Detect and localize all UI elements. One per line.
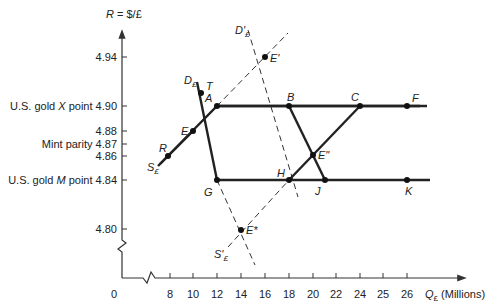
y-tick-label: 4.86 (96, 150, 117, 162)
demand-curve (197, 82, 430, 180)
shifted-demand-bj (289, 106, 325, 180)
point-label-r: R (159, 142, 167, 154)
supply-curve (160, 106, 420, 164)
y-tick-label: Mint parity 4.87 (42, 138, 117, 150)
point-label-c: C (351, 91, 359, 103)
y-tick-label: 4.80 (96, 223, 117, 235)
x-axis-title: Q£ (Millions) (425, 288, 485, 303)
point-label-e3: E* (246, 224, 258, 236)
s-curve-label: S£ (147, 161, 159, 176)
point-b (286, 103, 292, 109)
point-h (286, 177, 292, 183)
x-ticks: 810121416182022242526 (167, 273, 413, 300)
point-e3 (238, 227, 244, 233)
points: ABCFGHJKERTE'E"E* (159, 52, 420, 236)
point-label-h: H (277, 167, 285, 179)
x-tick-label: 14 (235, 288, 247, 300)
point-t (198, 90, 204, 96)
x-tick-label: 24 (354, 288, 366, 300)
point-label-k: K (405, 185, 413, 197)
y-tick-label: U.S. gold X point 4.90 (10, 100, 117, 112)
point-label-j: J (314, 185, 321, 197)
x-tick-label: 10 (187, 288, 199, 300)
point-c (357, 103, 363, 109)
x-tick-label: 20 (307, 288, 319, 300)
point-g (214, 177, 220, 183)
s-prime-curve-label: S'£ (214, 248, 228, 263)
y-tick-label: 4.88 (96, 125, 117, 137)
gold-standard-diagram: R = $/£ 0 Q£ (Millions) 4.94U.S. gold X … (0, 0, 501, 306)
point-k (404, 177, 410, 183)
point-label-a: A (204, 92, 212, 104)
x-tick-label: 26 (401, 288, 413, 300)
x-tick-label: 22 (330, 288, 342, 300)
point-label-e2: E" (318, 149, 330, 161)
point-e2 (310, 152, 316, 158)
s-prime-curve (228, 180, 289, 247)
point-e1 (262, 54, 268, 60)
point-label-f: F (412, 92, 420, 104)
point-j (322, 177, 328, 183)
point-label-g: G (204, 186, 213, 198)
point-f (404, 103, 410, 109)
x-tick-label: 18 (283, 288, 295, 300)
point-label-t: T (206, 80, 214, 92)
x-tick-label: 25 (377, 288, 389, 300)
x-axis (122, 272, 462, 283)
point-a (214, 103, 220, 109)
shifted-supply-hc (289, 106, 360, 180)
x-tick-label: 16 (259, 288, 271, 300)
x-tick-label: 12 (211, 288, 223, 300)
y-tick-label: 4.94 (96, 51, 117, 63)
point-label-e1: E' (270, 52, 280, 64)
y-tick-label: U.S. gold M point 4.84 (8, 174, 117, 186)
d-prime-curve-label: D'£ (235, 24, 250, 39)
point-label-e: E (181, 125, 189, 137)
x-tick-label: 8 (167, 288, 173, 300)
origin-label: 0 (111, 288, 117, 300)
y-axis-title: R = $/£ (106, 8, 142, 20)
point-label-b: B (287, 91, 294, 103)
point-e (190, 128, 196, 134)
d-curve-label: D£ (184, 74, 197, 89)
y-ticks: 4.94U.S. gold X point 4.904.88Mint parit… (8, 51, 127, 235)
